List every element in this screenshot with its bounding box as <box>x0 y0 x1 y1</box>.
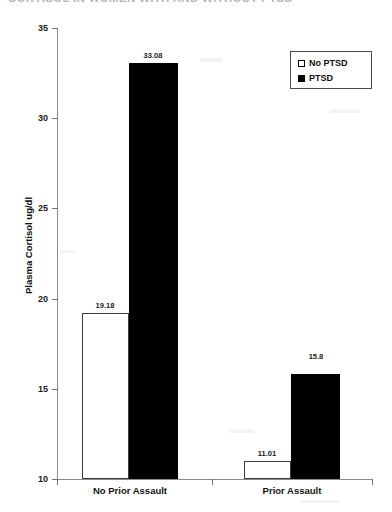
x-category-label-no-prior-assault: No Prior Assault <box>50 486 210 496</box>
scan-artifact <box>330 110 360 113</box>
x-tick-category-separator <box>212 479 213 485</box>
y-tick-label-30: 30 <box>8 114 48 123</box>
y-tick-mark-25 <box>52 208 58 209</box>
y-axis-line <box>57 28 58 480</box>
legend-item-ptsd: PTSD <box>298 71 371 86</box>
bar-prior-assault-ptsd <box>291 374 340 479</box>
open-square-icon <box>298 60 305 67</box>
bar-value-prior-assault-no-ptsd: 11.01 <box>242 450 292 458</box>
x-tick-end <box>372 479 373 485</box>
bar-prior-assault-no-ptsd <box>244 461 291 479</box>
bar-value-no-prior-assault-no-ptsd: 19.18 <box>80 302 130 310</box>
y-tick-label-15: 15 <box>8 385 48 394</box>
bar-no-prior-assault-no-ptsd <box>82 313 129 479</box>
bar-value-prior-assault-ptsd: 15.8 <box>291 353 341 361</box>
x-tick-start <box>57 479 58 485</box>
x-category-label-prior-assault: Prior Assault <box>212 486 372 496</box>
y-tick-mark-35 <box>52 28 58 29</box>
y-tick-mark-15 <box>52 389 58 390</box>
y-axis-title: Plasma Cortisol ug/dl <box>23 166 34 326</box>
legend-label-no-ptsd: No PTSD <box>309 59 348 68</box>
y-tick-mark-20 <box>52 299 58 300</box>
filled-square-icon <box>298 75 305 82</box>
legend-item-no-ptsd: No PTSD <box>298 56 371 71</box>
bar-value-no-prior-assault-ptsd: 33.08 <box>128 52 178 60</box>
chart-legend: No PTSD PTSD <box>290 51 372 89</box>
bar-no-prior-assault-ptsd <box>129 63 178 479</box>
scan-artifact <box>230 430 254 433</box>
y-tick-label-35: 35 <box>8 24 48 33</box>
scan-artifact <box>60 250 76 253</box>
y-tick-label-10: 10 <box>8 475 48 484</box>
scan-artifact <box>300 500 340 503</box>
bar-chart: 35 30 25 20 15 10 19.18 33.08 No Prior A… <box>0 0 392 512</box>
x-axis-line <box>57 479 373 480</box>
y-tick-mark-30 <box>52 118 58 119</box>
legend-label-ptsd: PTSD <box>309 74 333 83</box>
scan-artifact <box>200 58 222 62</box>
